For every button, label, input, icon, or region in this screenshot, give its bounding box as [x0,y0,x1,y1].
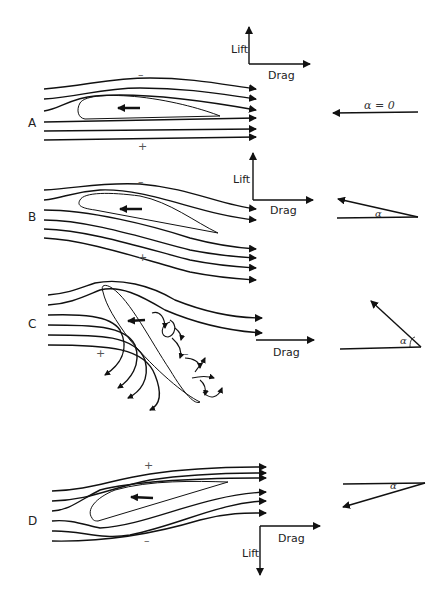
panel-a-force-axes [249,27,310,64]
panel-label-b: B [28,211,36,223]
panel-b-alpha-label: α [375,209,382,219]
panel-c-airfoil [102,285,200,402]
panel-a-airfoil [78,95,220,119]
panel-a-alpha-arrow [333,112,418,113]
panel-b-upper-sign: – [138,176,144,187]
panel-a-streamlines [44,78,256,140]
panel-c-alpha-label: α [400,336,407,346]
panel-d-motion-arrow [131,497,153,498]
panel-b-lift-label: Lift [233,174,250,185]
panel-c-lower-sign: + [96,348,105,359]
panel-d-drag-label: Drag [278,533,305,544]
panel-b-drag-label: Drag [270,205,297,216]
panel-c-motion-arrow [128,320,145,321]
panel-b-lower-sign: + [138,252,147,263]
panel-label-c: C [28,318,36,330]
airfoil-diagram [0,0,448,607]
panel-c-upper-sign: – [183,348,189,359]
panel-b-force-axes [253,153,313,200]
panel-c-drag-label: Drag [273,347,300,358]
panel-a-alpha-label: α = 0 [364,100,395,111]
panel-label-a: A [28,117,36,129]
panel-d-lower-sign: – [144,535,150,546]
panel-a-upper-sign: – [138,69,144,80]
panel-d-streamlines [52,467,266,541]
panel-label-d: D [28,515,37,527]
panel-a-lower-sign: + [138,141,147,152]
panel-d-lift-label: Lift [242,548,259,559]
panel-c-alpha-arrow [340,301,421,349]
panel-a-drag-label: Drag [268,70,295,81]
panel-d-upper-sign: + [144,460,153,471]
panel-a-lift-label: Lift [231,44,248,55]
panel-d-alpha-arrow [343,483,425,507]
panel-d-alpha-label: α [390,481,397,491]
